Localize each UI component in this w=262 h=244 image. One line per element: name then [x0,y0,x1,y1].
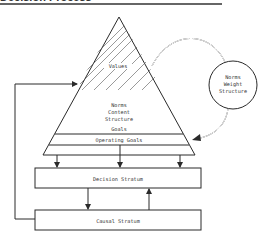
circle-label-line1: Norms [225,74,241,80]
causal-stratum-label: Causal Stratum [96,218,140,224]
causal-stratum-box: Causal Stratum [35,210,201,230]
page-heading: Decision Process [0,0,92,3]
norms-content-line3: Structure [105,116,133,122]
goals-label: Goals [111,126,127,132]
norms-content-line1: Norms [111,102,127,108]
operating-goals-label: Operating Goals [96,137,143,144]
circle-label-line2: Weight [224,81,243,88]
values-hatching [80,24,188,90]
norms-weight-circle: Norms Weight Structure [209,61,257,109]
decision-stratum-label: Decision Stratum [93,176,143,182]
norms-content-line2: Content [108,109,130,115]
circle-to-goals-connector [192,109,228,141]
circle-label-line3: Structure [219,88,247,94]
circle-to-values-connector [152,38,225,66]
feedback-loop-arrow [15,84,77,219]
norms-pyramid: Values Norms Content Structure Goals Ope… [43,17,195,155]
decision-process-diagram: Decision Process Values Norms Content St… [0,0,262,244]
values-label: Values [109,63,128,69]
decision-stratum-box: Decision Stratum [35,168,201,188]
goals-arrowhead [192,134,201,141]
